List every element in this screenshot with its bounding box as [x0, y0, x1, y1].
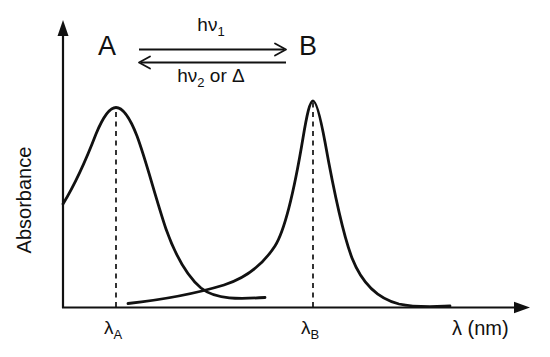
x-tick-label-lambda-a-base: λ	[104, 317, 114, 338]
species-b-absorbance-curve	[128, 101, 450, 307]
forward-photon-base: hν	[197, 14, 217, 35]
reverse-photon-label: hν2 or Δ	[0, 66, 422, 85]
reverse-photon-base: hν	[177, 65, 197, 86]
species-a-label: A	[98, 33, 117, 60]
absorbance-spectra-figure: A B hν1 hν2 or Δ Absorbance λ (nm) λA λB	[0, 0, 550, 357]
x-axis-title: λ (nm)	[452, 318, 509, 338]
forward-photon-label: hν1	[0, 15, 422, 34]
x-tick-label-lambda-b-base: λ	[301, 317, 311, 338]
guide-lines-group	[116, 101, 313, 307]
x-tick-label-lambda-b-subscript: B	[311, 327, 320, 342]
x-axis-arrowhead-icon	[514, 302, 530, 313]
x-tick-label-lambda-a: λA	[104, 318, 122, 337]
species-a-absorbance-curve	[63, 108, 265, 299]
plot-canvas	[0, 0, 550, 357]
x-tick-label-lambda-b: λB	[301, 318, 319, 337]
reverse-photon-suffix: or Δ	[205, 65, 245, 86]
y-axis-title: Absorbance	[14, 120, 34, 280]
x-tick-label-lambda-a-subscript: A	[114, 327, 123, 342]
species-b-label: B	[299, 33, 318, 60]
reverse-photon-subscript: 2	[197, 75, 204, 90]
forward-photon-subscript: 1	[217, 24, 224, 39]
axes-group	[58, 20, 531, 313]
